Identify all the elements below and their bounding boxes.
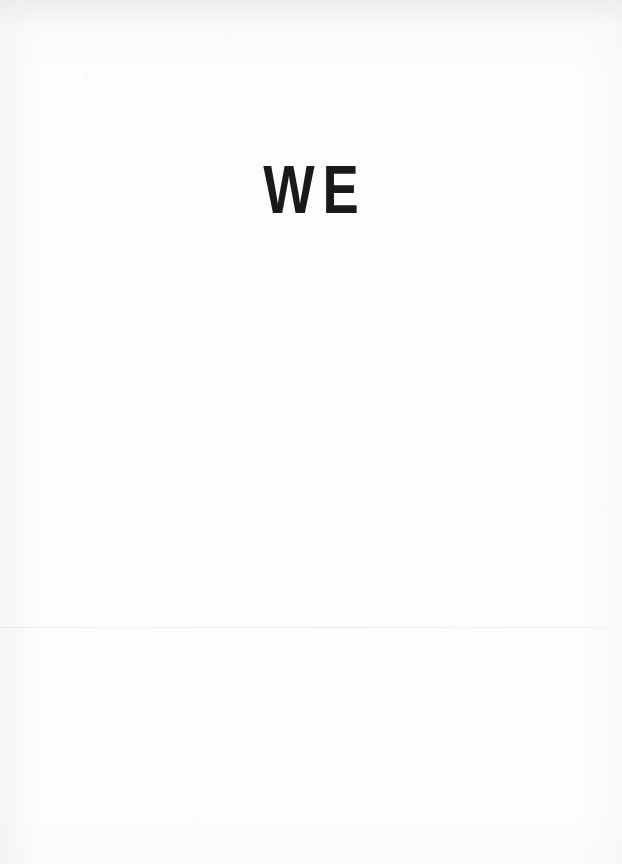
- page-title: WE: [62, 160, 560, 218]
- paper-grain-texture: [0, 0, 622, 864]
- paper-tone-overlay: [0, 0, 622, 864]
- fold-crease-line: [0, 627, 622, 628]
- scanned-page: WE: [0, 0, 622, 864]
